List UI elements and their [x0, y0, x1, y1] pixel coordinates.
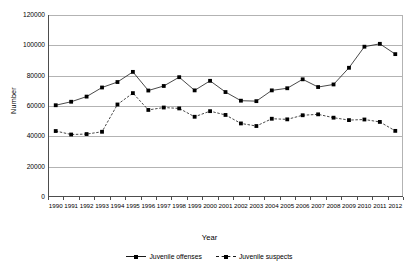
data-point-marker	[54, 103, 58, 107]
data-point-marker	[224, 113, 228, 117]
data-point-marker	[363, 45, 367, 49]
data-point-marker	[301, 77, 305, 81]
data-point-marker	[301, 113, 305, 117]
data-point-marker	[393, 129, 397, 133]
data-point-marker	[378, 42, 382, 46]
data-point-marker	[208, 109, 212, 113]
data-point-marker	[69, 133, 73, 137]
data-point-marker	[285, 117, 289, 121]
series-1	[54, 42, 397, 107]
data-point-marker	[162, 84, 166, 88]
series-layer	[0, 0, 419, 272]
data-point-marker	[193, 115, 197, 119]
data-point-marker	[131, 91, 135, 95]
data-point-marker	[332, 83, 336, 87]
line-chart: Number 020000400006000080000100000120000…	[0, 0, 419, 272]
data-point-marker	[208, 79, 212, 83]
data-point-marker	[239, 122, 243, 126]
data-point-marker	[100, 130, 104, 134]
data-point-marker	[146, 108, 150, 112]
data-point-marker	[316, 112, 320, 116]
data-point-marker	[316, 85, 320, 89]
data-point-marker	[254, 124, 258, 128]
data-point-marker	[54, 129, 58, 133]
data-point-marker	[224, 90, 228, 94]
data-point-marker	[270, 117, 274, 121]
data-point-marker	[270, 88, 274, 92]
data-point-marker	[100, 86, 104, 90]
data-point-marker	[146, 89, 150, 93]
data-point-marker	[177, 75, 181, 79]
data-point-marker	[116, 103, 120, 107]
series-2	[54, 91, 397, 136]
data-point-marker	[347, 118, 351, 122]
data-point-marker	[378, 120, 382, 124]
data-point-marker	[85, 95, 89, 99]
data-point-marker	[254, 99, 258, 103]
data-point-marker	[239, 99, 243, 103]
data-point-marker	[332, 116, 336, 120]
data-point-marker	[285, 86, 289, 90]
data-point-marker	[347, 66, 351, 70]
data-point-marker	[162, 106, 166, 110]
data-point-marker	[85, 132, 89, 136]
data-point-marker	[131, 70, 135, 74]
data-point-marker	[393, 52, 397, 56]
data-point-marker	[116, 80, 120, 84]
data-point-marker	[177, 107, 181, 111]
data-point-marker	[69, 100, 73, 104]
series-line	[56, 44, 396, 105]
data-point-marker	[363, 118, 367, 122]
data-point-marker	[193, 88, 197, 92]
